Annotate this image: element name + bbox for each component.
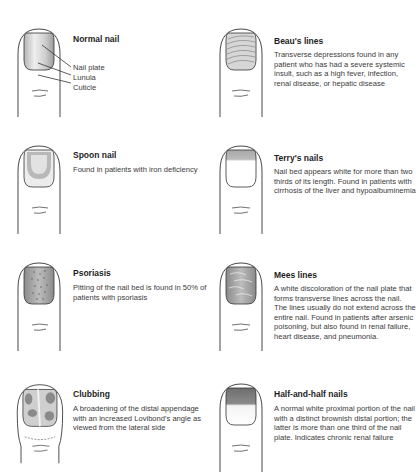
terrys-nails-illustration xyxy=(218,141,268,234)
nail-description: Transverse depressions found in any pati… xyxy=(274,50,416,88)
label-nail-plate: Nail plate xyxy=(73,63,105,72)
nail-title: Psoriasis xyxy=(73,268,111,278)
nail-description: A broadening of the distal appendage wit… xyxy=(73,404,210,433)
beaus-lines-illustration xyxy=(218,24,268,117)
nail-item-beaus-lines: Beau's lines Transverse depressions foun… xyxy=(210,0,420,117)
label-lunula: Lunula xyxy=(73,73,96,82)
nail-item-mees-lines: Mees lines A white discoloration of the … xyxy=(210,234,420,351)
nail-item-clubbing: Clubbing A broadening of the distal appe… xyxy=(0,351,210,468)
nail-description: Found in patients with iron deficiency xyxy=(73,165,208,175)
nail-item-spoon-nail: Spoon nail Found in patients with iron d… xyxy=(0,117,210,234)
nail-item-psoriasis: Psoriasis Pitting of the nail bed is fou… xyxy=(0,234,210,351)
nail-title: Spoon nail xyxy=(73,150,116,160)
nail-title: Half-and-half nails xyxy=(274,389,348,399)
nail-description: A normal white proximal portion of the n… xyxy=(274,404,416,442)
nail-item-normal: Normal nail Nail plate Lunula Cuticle xyxy=(0,0,210,117)
nail-item-terrys-nails: Terry's nails Nail bed appears white for… xyxy=(210,117,420,234)
nail-description: Nail bed appears white for more than two… xyxy=(274,167,416,196)
label-cuticle: Cuticle xyxy=(73,83,96,92)
nail-title: Mees lines xyxy=(274,270,317,280)
nail-title: Clubbing xyxy=(73,389,110,399)
mees-lines-illustration xyxy=(218,258,268,351)
spoon-nail-illustration xyxy=(14,141,64,234)
nail-description: A white discoloration of the nail plate … xyxy=(274,284,416,342)
nail-item-half-and-half-nails: Half-and-half nails A normal white proxi… xyxy=(210,351,420,468)
half-and-half-nails-illustration xyxy=(218,379,268,472)
clubbing-illustration xyxy=(13,380,65,468)
nail-title: Terry's nails xyxy=(274,153,323,163)
nail-title: Beau's lines xyxy=(274,36,323,46)
label-leader-lines xyxy=(0,0,80,117)
nail-title: Normal nail xyxy=(73,34,119,44)
psoriasis-illustration xyxy=(14,258,64,351)
nail-description: Pitting of the nail bed is found in 50% … xyxy=(73,283,208,302)
